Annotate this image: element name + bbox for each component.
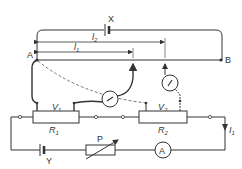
wire-r1-to-galvo1 [74, 101, 103, 111]
current-arrow-icon [222, 124, 228, 131]
wire-galvo1-to-jockey1 [117, 64, 133, 96]
length-l2-label: l2 [92, 32, 98, 43]
resistor-r1 [33, 111, 79, 123]
circuit-diagram: X l2 l1 A B V1 V2 [0, 0, 242, 169]
ammeter-label: A [159, 146, 165, 156]
resistor-r1-label: R1 [49, 125, 59, 136]
rheostat-p-label: P [97, 134, 103, 144]
current-label: I1 [229, 125, 235, 136]
point-b [219, 58, 222, 61]
resistor-r2 [139, 111, 187, 123]
galvanometer-1-icon [102, 91, 118, 107]
battery-x-label: X [108, 14, 114, 24]
point-b-label: B [225, 55, 231, 65]
battery-x-icon [105, 24, 109, 36]
length-l1-label: l1 [74, 42, 79, 53]
resistor-r2-label: R2 [158, 125, 169, 136]
battery-y-label: Y [46, 156, 52, 166]
battery-y-icon [40, 144, 44, 156]
galvanometer-2-icon [162, 75, 178, 91]
dashed-wire-a-to-r2 [38, 61, 146, 103]
point-a-label: A [27, 50, 33, 60]
top-loop [37, 30, 222, 60]
length-l2-arrow [38, 38, 165, 58]
length-l1-arrow [38, 48, 133, 58]
